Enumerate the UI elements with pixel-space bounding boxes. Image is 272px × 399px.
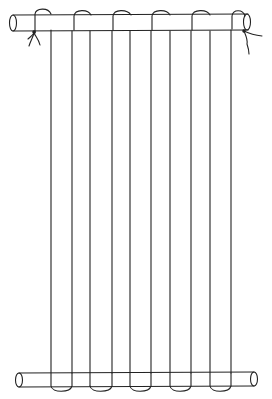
left-end-tie [28,31,40,46]
bottom-rod [16,372,258,387]
warp-threads [35,9,245,391]
right-end-tie [243,30,262,54]
loom-drawing [0,0,272,399]
top-rod [10,14,251,31]
